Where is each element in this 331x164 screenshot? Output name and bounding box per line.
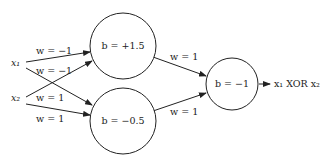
hidden-node-1-label: b = +1.5: [101, 40, 144, 51]
input-x1-label: x₁: [11, 57, 20, 68]
xor-network-diagram: b = +1.5 b = −0.5 b = −1 x₁ x₂ w = −1 w …: [0, 0, 331, 164]
weight-label-h2-out: w = 1: [170, 106, 198, 117]
weight-label-x2-h2: w = 1: [36, 113, 64, 124]
input-x2-label: x₂: [11, 92, 20, 103]
output-result-label: x₁ XOR x₂: [274, 78, 320, 89]
weight-label-x1-h1: w = −1: [36, 45, 72, 56]
output-node-label: b = −1: [215, 78, 249, 89]
weight-label-x1-h2: w = 1: [36, 92, 64, 103]
weight-label-h1-out: w = 1: [170, 51, 198, 62]
weight-label-x2-h1: w = −1: [36, 65, 72, 76]
hidden-node-2-label: b = −0.5: [101, 115, 144, 126]
